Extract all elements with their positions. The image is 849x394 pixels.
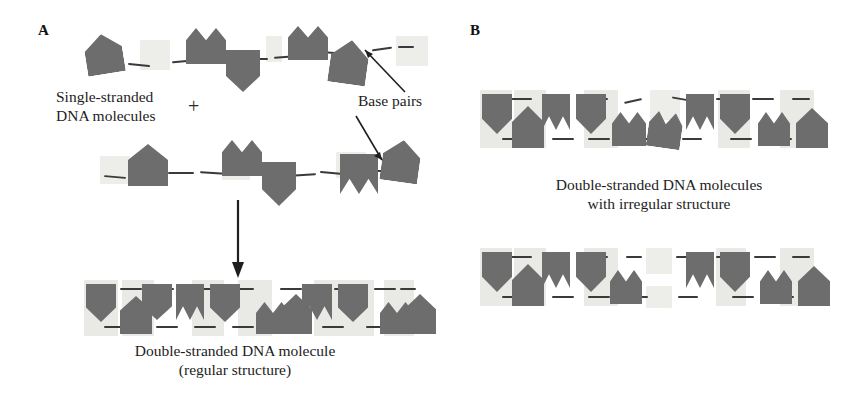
backbone-segment <box>280 288 302 290</box>
backbone-segment <box>624 98 642 104</box>
backbone-segment <box>792 98 810 100</box>
base-pairs-pointer-up-arrow <box>355 45 415 95</box>
nucleotide-chevron <box>338 284 368 322</box>
nucleotide-peaks <box>288 26 328 60</box>
backbone-segment <box>400 288 416 290</box>
backbone-segment <box>510 98 532 100</box>
duplex-regular <box>84 280 414 338</box>
nucleotide-notch <box>176 284 204 320</box>
backbone-segment <box>168 172 194 174</box>
nucleotide-house <box>512 106 544 148</box>
nucleotide-notch <box>542 252 570 288</box>
base-pairs-pointer-down-arrow <box>350 112 400 167</box>
nucleotide-house <box>512 264 544 306</box>
backbone-segment <box>732 296 754 298</box>
duplex-irregular-caption: Double-stranded DNA molecules with irreg… <box>484 176 834 214</box>
backbone-segment <box>156 326 178 328</box>
nucleotide-chevron <box>482 94 512 134</box>
duplex-irregular-top <box>480 90 840 150</box>
nucleotide-notch <box>686 252 714 288</box>
backbone-segment <box>374 288 396 290</box>
nucleotide-peaks <box>222 140 262 176</box>
nucleotide-house <box>798 266 830 306</box>
base-pair-halo <box>100 156 130 184</box>
backbone-segment <box>588 296 610 298</box>
backbone-segment <box>120 288 142 290</box>
base-pair-halo <box>646 286 672 308</box>
nucleotide-chevron <box>226 50 260 92</box>
nucleotide-house <box>796 108 828 148</box>
backbone-segment <box>588 138 610 140</box>
nucleotide-chevron <box>720 94 750 134</box>
duplex-regular-caption: Double-stranded DNA molecule (regular st… <box>40 342 430 380</box>
nucleotide-notch <box>686 94 714 130</box>
nucleotide-chevron <box>576 252 606 292</box>
backbone-segment <box>552 138 574 140</box>
panel-b: B Doubl <box>470 0 849 394</box>
panel-a: A <box>0 0 470 394</box>
backbone-segment <box>552 296 574 298</box>
nucleotide-peaks <box>758 112 790 146</box>
nucleotide-house <box>85 34 123 74</box>
backbone-segment <box>682 138 702 140</box>
nucleotide-chevron <box>210 284 240 322</box>
nucleotide-peaks <box>648 112 682 148</box>
backbone-segment <box>754 256 776 258</box>
nucleotide-chevron <box>720 252 750 292</box>
nucleotide-peaks <box>612 112 646 146</box>
nucleotide-house <box>128 144 168 186</box>
nucleotide-house <box>280 294 312 334</box>
duplex-irregular-bottom <box>480 248 840 308</box>
single-stranded-caption: Single-stranded DNA molecules <box>56 88 155 126</box>
base-pair-halo <box>646 248 672 274</box>
nucleotide-chevron <box>482 252 512 292</box>
backbone-segment <box>510 256 532 258</box>
nucleotide-house <box>404 294 436 334</box>
backbone-segment <box>792 256 810 258</box>
backbone-segment <box>322 326 344 328</box>
backbone-segment <box>730 138 752 140</box>
nucleotide-notch <box>542 94 570 130</box>
backbone-segment <box>626 256 642 258</box>
nucleotide-house <box>120 296 152 334</box>
nucleotide-peaks <box>610 270 642 304</box>
backbone-segment <box>232 326 254 328</box>
reaction-arrow-down-icon <box>230 200 246 278</box>
nucleotide-chevron <box>576 94 606 134</box>
nucleotide-peaks <box>186 28 226 64</box>
backbone-segment <box>752 98 774 100</box>
backbone-segment <box>678 296 698 298</box>
nucleotide-peaks <box>760 270 792 304</box>
panel-b-label: B <box>470 22 480 39</box>
backbone-segment <box>194 326 216 328</box>
nucleotide-chevron <box>86 284 116 322</box>
plus-symbol: + <box>188 96 199 116</box>
nucleotide-chevron <box>262 162 296 206</box>
